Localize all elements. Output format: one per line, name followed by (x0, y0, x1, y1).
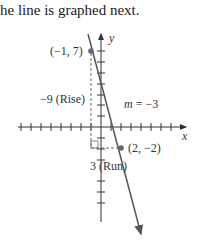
graph: x y (−1, 7) (2, −2) −9 (Rise) (0, 0, 208, 249)
rise-label: −9 (Rise) (40, 92, 85, 106)
right-angle-marker (91, 141, 98, 148)
point2-label: (2, −2) (128, 141, 161, 155)
point-neg1-7 (88, 48, 94, 54)
x-axis (18, 123, 186, 131)
y-axis (97, 34, 105, 222)
slope-m: m (124, 97, 133, 111)
x-axis-label: x (181, 129, 188, 143)
point1-label: (−1, 7) (50, 44, 83, 58)
y-axis-label: y (108, 31, 115, 45)
slope-label: m = −3 (124, 97, 158, 111)
point-2-neg2 (118, 145, 124, 151)
run-label: 3 (Run) (90, 159, 127, 173)
slope-value: = −3 (133, 97, 159, 111)
graph-line (88, 34, 141, 234)
